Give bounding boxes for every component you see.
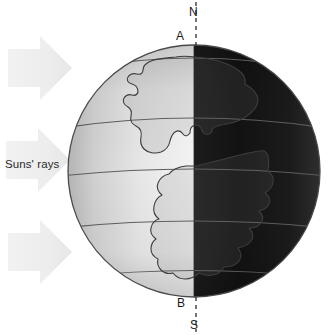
suns-ray-arrow-bottom <box>8 220 72 284</box>
label-suns-rays: Suns' rays <box>5 159 59 171</box>
label-south-pole: S <box>190 319 198 331</box>
diagram-canvas: N A B S Suns' rays <box>0 0 333 335</box>
globe <box>60 45 328 297</box>
label-point-b: B <box>177 297 185 309</box>
label-north-pole: N <box>189 6 198 18</box>
label-point-a: A <box>176 30 184 42</box>
suns-ray-arrow-top <box>8 36 72 100</box>
